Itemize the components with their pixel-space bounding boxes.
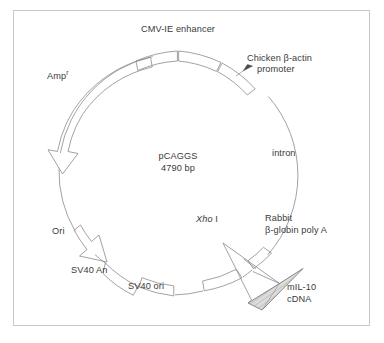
label-insert-cdna: cDNA — [287, 294, 311, 306]
label-xhoi-number: I — [215, 214, 218, 224]
label-xhoi-enzyme: Xho — [196, 214, 213, 224]
feature-band-cmv-enhancer-a — [136, 51, 178, 71]
label-sv40-an: SV40 An — [71, 265, 107, 277]
label-cmv-ie-enhancer: CMV-IE enhancer — [118, 24, 238, 36]
label-chicken-beta-actin-promoter-line2: promoter — [257, 64, 295, 76]
label-chicken-beta-actin-promoter-line1: Chicken β-actin — [247, 53, 312, 65]
backbone-arc-bottom — [175, 291, 203, 295]
expansion-line-upper — [223, 243, 280, 284]
label-ampr-base: Amp — [47, 71, 66, 81]
restriction-site-tick-xhoi — [244, 259, 256, 269]
label-intron: intron — [272, 148, 296, 160]
label-restriction-site-xhoi: Xho I — [196, 214, 218, 226]
backbone-arc-left — [59, 169, 75, 232]
feature-band-cmv-enhancer-b — [179, 51, 221, 71]
label-plasmid-name: pCAGGS — [128, 151, 228, 163]
label-ampr: Ampr — [47, 67, 69, 83]
expansion-line-lower — [253, 272, 280, 284]
feature-arrow-ori — [74, 225, 107, 262]
label-plasmid-size: 4790 bp — [128, 163, 228, 175]
label-sv40-ori: SV40 ori — [128, 281, 164, 293]
label-ori: Ori — [52, 226, 65, 238]
label-insert-mil10: mIL-10 — [287, 282, 316, 294]
backbone-arc-bottom-right — [243, 270, 252, 277]
feature-band-chicken-promoter — [218, 63, 256, 95]
backbone-arc-bottom-left — [95, 255, 107, 265]
label-rabbit-polya-line2: β-globin poly A — [265, 225, 327, 237]
label-ampr-superscript: r — [66, 69, 68, 76]
feature-band-lower-right — [203, 269, 242, 291]
label-rabbit-polya-line1: Rabbit — [265, 213, 292, 225]
plasmid-map-figure: CMV-IE enhancer Chicken β-actin promoter… — [0, 0, 384, 343]
expansion-line-left — [223, 243, 252, 300]
